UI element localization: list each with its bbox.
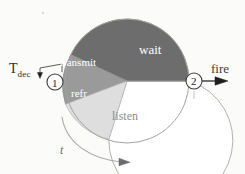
node-2-circle[interactable] xyxy=(186,73,202,89)
diagram-canvas xyxy=(0,0,245,174)
node-1-circle[interactable] xyxy=(47,74,63,90)
tdec-leader-top xyxy=(40,64,62,68)
tdec-arrow-head xyxy=(37,73,42,79)
slice-listen xyxy=(109,81,233,174)
state-cycle-diagram: wait transmit refr listen fire Tdec t 1 … xyxy=(0,0,245,174)
scan-speck xyxy=(42,12,44,14)
fire-arrow-head xyxy=(215,77,228,85)
